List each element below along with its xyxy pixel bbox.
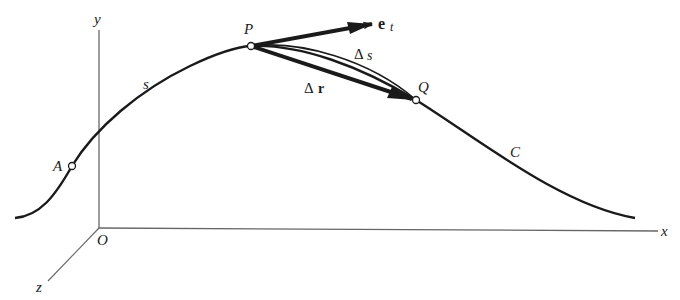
- tangent-arrowhead: [347, 22, 372, 34]
- delta-r-arrowhead: [387, 87, 414, 100]
- z-axis: [48, 228, 99, 281]
- arc-length-label: s: [143, 76, 149, 92]
- origin-label: O: [97, 232, 108, 248]
- point-a: [69, 163, 76, 170]
- point-a-label: A: [52, 158, 63, 174]
- z-axis-label: z: [35, 279, 42, 295]
- point-p-label: P: [243, 21, 253, 37]
- curve-label: C: [510, 144, 521, 160]
- delta-s-symbol: Δ: [354, 46, 364, 62]
- diagram-svg: y x z O A P Q s C Δ s Δ r e t: [0, 0, 680, 300]
- x-axis: [99, 228, 658, 231]
- delta-s-var: s: [367, 48, 373, 63]
- point-p: [248, 43, 255, 50]
- tangent-vector-label: e: [378, 15, 385, 32]
- tangent-vector-subscript: t: [390, 20, 394, 34]
- y-axis-label: y: [92, 11, 101, 27]
- point-q-label: Q: [418, 79, 429, 95]
- diagram-canvas: y x z O A P Q s C Δ s Δ r e t: [0, 0, 680, 300]
- x-axis-label: x: [660, 223, 668, 239]
- delta-r-symbol: Δ: [304, 80, 314, 96]
- point-q: [413, 97, 420, 104]
- delta-r-var: r: [318, 81, 324, 96]
